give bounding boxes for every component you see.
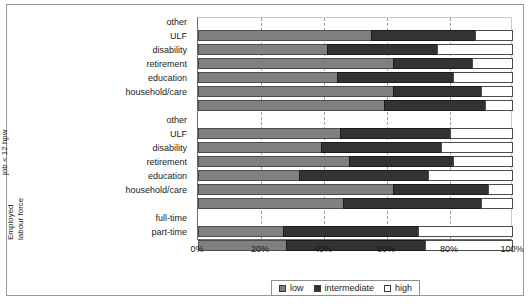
bar-segment-low: [198, 58, 393, 69]
bar-segment-high: [450, 128, 513, 139]
bar-retirement: [198, 72, 513, 83]
bar-segment-low: [198, 156, 349, 167]
bar-full-time: [198, 226, 513, 237]
bar-segment-intermediate: [371, 30, 475, 41]
bar-segment-high: [481, 198, 513, 209]
bar-segment-high: [485, 100, 513, 111]
bar-segment-high: [488, 184, 513, 195]
category-label: full-time: [155, 213, 187, 224]
bar-segment-low: [198, 72, 337, 83]
bar-household-care: [198, 100, 513, 111]
bar-segment-low: [198, 128, 340, 139]
bar-segment-low: [198, 198, 343, 209]
bar-segment-high: [453, 72, 513, 83]
legend-label-intermediate: intermediate: [325, 283, 375, 293]
bar-segment-low: [198, 142, 321, 153]
legend-item-intermediate: intermediate: [314, 283, 375, 293]
xtick-label: 0%: [177, 244, 217, 254]
bar-segment-high: [453, 156, 513, 167]
bar-retirement: [198, 170, 513, 181]
bar-education: [198, 86, 513, 97]
bar-segment-high: [481, 86, 513, 97]
xtick-label: 20%: [240, 244, 280, 254]
category-label: disability: [152, 45, 187, 56]
bar-ulf: [198, 44, 513, 55]
bar-segment-intermediate: [340, 128, 450, 139]
xtick-label: 60%: [366, 244, 406, 254]
category-label: part-time: [151, 227, 187, 238]
bar-segment-low: [198, 226, 283, 237]
bar-segment-high: [437, 44, 513, 55]
bar-segment-intermediate: [283, 226, 418, 237]
bar-segment-low: [198, 44, 327, 55]
bar-other: [198, 30, 513, 41]
group-label-line1: Employed: [6, 204, 15, 240]
bar-segment-intermediate: [337, 72, 454, 83]
category-label: ULF: [170, 31, 187, 42]
legend-swatch-high-icon: [384, 285, 391, 292]
bar-disability: [198, 58, 513, 69]
legend-item-high: high: [384, 283, 412, 293]
category-label: household/care: [125, 87, 187, 98]
chart-figure: Inactive without job < 12 hpw Inactive w…: [6, 4, 524, 296]
category-label: other: [166, 17, 187, 28]
category-label: education: [148, 171, 187, 182]
bar-ulf: [198, 142, 513, 153]
bar-segment-intermediate: [384, 100, 485, 111]
bar-household-care: [198, 198, 513, 209]
plot-area: [197, 17, 512, 240]
bar-segment-low: [198, 86, 393, 97]
bar-segment-high: [475, 30, 513, 41]
bar-segment-high: [441, 142, 513, 153]
bar-segment-intermediate: [343, 198, 482, 209]
group-label-line2: labour force: [16, 198, 25, 240]
bar-segment-intermediate: [393, 184, 488, 195]
bar-segment-intermediate: [393, 58, 472, 69]
bar-segment-low: [198, 170, 299, 181]
bar-segment-low: [198, 184, 393, 195]
xtick-label: 40%: [303, 244, 343, 254]
chart-legend: low intermediate high: [271, 280, 420, 296]
category-label: other: [166, 115, 187, 126]
bar-segment-intermediate: [321, 142, 441, 153]
group-label-line2: job < 12 hpw: [0, 129, 9, 175]
bar-segment-low: [198, 100, 384, 111]
category-label-column: other ULF disability retirement educatio…: [63, 5, 191, 240]
bar-segment-low: [198, 30, 371, 41]
category-label: disability: [152, 143, 187, 154]
category-label: education: [148, 73, 187, 84]
bar-segment-high: [418, 226, 513, 237]
xtick-label: 100%: [492, 244, 531, 254]
category-label: retirement: [146, 59, 187, 70]
bar-segment-high: [428, 170, 513, 181]
bar-segment-high: [472, 58, 513, 69]
bar-education: [198, 184, 513, 195]
bar-segment-intermediate: [393, 86, 481, 97]
xtick-label: 80%: [429, 244, 469, 254]
legend-label-high: high: [395, 283, 412, 293]
legend-swatch-low-icon: [279, 285, 286, 292]
bar-segment-intermediate: [327, 44, 437, 55]
legend-label-low: low: [290, 283, 304, 293]
bar-disability: [198, 156, 513, 167]
group-label-inactive-with: Inactive with job < 12 hpw: [0, 145, 70, 175]
legend-swatch-intermediate-icon: [314, 285, 321, 292]
bar-segment-intermediate: [349, 156, 453, 167]
category-label: ULF: [170, 129, 187, 140]
category-label: retirement: [146, 157, 187, 168]
group-label-employed: Employed labour force: [6, 210, 54, 240]
bar-other: [198, 128, 513, 139]
bar-segment-intermediate: [299, 170, 428, 181]
category-label: household/care: [125, 185, 187, 196]
legend-item-low: low: [279, 283, 304, 293]
